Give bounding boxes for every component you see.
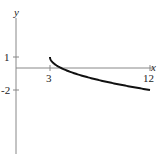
chart: y x 1 -2 3 12 <box>0 0 162 156</box>
function-curve <box>50 57 150 90</box>
x-tick-label-12: 12 <box>143 72 154 84</box>
x-tick-label-3: 3 <box>46 72 52 84</box>
y-axis-label: y <box>13 6 19 18</box>
y-tick-label-neg2: -2 <box>1 84 10 96</box>
y-tick-label-1: 1 <box>4 51 10 63</box>
